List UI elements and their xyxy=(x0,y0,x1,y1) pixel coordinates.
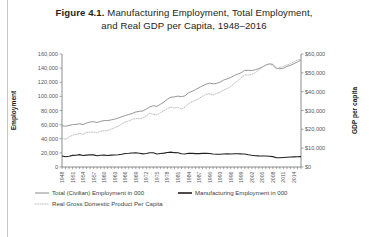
x-axis-tick-label: 1993 xyxy=(217,171,223,183)
x-axis-tick-label: 1984 xyxy=(186,171,192,183)
y-axis-left-title: Employment xyxy=(10,90,18,130)
x-axis-tick-label: 1990 xyxy=(207,171,213,183)
x-axis-tick-label: 2002 xyxy=(249,171,255,183)
figure-title: Figure 4.1. Manufacturing Employment, To… xyxy=(34,6,334,32)
figure-number: Figure 4.1. xyxy=(55,7,104,18)
axis-lines xyxy=(62,54,301,167)
series-line xyxy=(62,152,301,158)
x-axis-tick-label: 1957 xyxy=(91,171,97,183)
x-axis-tick-label: 1975 xyxy=(154,171,160,183)
x-axis-tick-label: 1969 xyxy=(133,171,139,183)
y-axis-right-tick-label: $60,000 xyxy=(305,51,325,57)
y-axis-left-tick-label: 100,000 xyxy=(38,93,58,99)
y-axis-left-tick-label: 120,000 xyxy=(38,79,58,85)
chart-container: 020,00040,00060,00080,000100,000120,0001… xyxy=(0,38,369,237)
figure-title-line-2: and Real GDP per Capita, 1948–2016 xyxy=(101,20,266,31)
y-axis-left-tick-label: 140,000 xyxy=(38,65,58,71)
chart-series-layer xyxy=(62,59,301,157)
x-axis-tick-label: 1996 xyxy=(228,171,234,183)
y-axis-right-tick-label: $20,000 xyxy=(305,126,325,132)
y-axis-right-tick-label: $40,000 xyxy=(305,89,325,95)
y-axis-left-tick-label: 60,000 xyxy=(41,122,58,128)
x-axis-tick-label: 1960 xyxy=(101,171,107,183)
y-axis-left-tick-label: 160,000 xyxy=(38,51,58,57)
x-axis-tick-label: 1978 xyxy=(164,171,170,183)
line-chart: 020,00040,00060,00080,000100,000120,0001… xyxy=(0,38,369,237)
y-axis-right-title: GDP per capita xyxy=(351,87,359,134)
x-axis-ticks: 1948195119541957196019631966196919721975… xyxy=(59,167,301,183)
x-axis-tick-label: 1972 xyxy=(143,171,149,183)
x-axis-tick-label: 1999 xyxy=(238,171,244,183)
y-axis-left-ticks: 020,00040,00060,00080,000100,000120,0001… xyxy=(38,51,62,170)
x-axis-tick-label: 1954 xyxy=(80,171,86,183)
series-line xyxy=(62,60,301,126)
x-axis-tick-label: 1987 xyxy=(196,171,202,183)
x-axis-tick-label: 2014 xyxy=(291,171,297,183)
y-axis-right-tick-label: $0 xyxy=(305,164,311,170)
x-axis-tick-label: 2005 xyxy=(259,171,265,183)
figure-source-caption xyxy=(34,232,344,237)
legend-label: Manufacturing Employment in 000 xyxy=(195,189,288,196)
y-axis-left-tick-label: 40,000 xyxy=(41,136,58,142)
legend-label: Real Gross Domestic Product Per Capita xyxy=(52,200,163,207)
chart-legend: Total (Civilian) Employment in 000Manufa… xyxy=(35,189,288,207)
x-axis-tick-label: 2011 xyxy=(280,171,286,182)
legend-label: Total (Civilian) Employment in 000 xyxy=(52,189,145,196)
y-axis-left-tick-label: 80,000 xyxy=(41,108,58,114)
x-axis-tick-label: 1951 xyxy=(70,171,76,183)
x-axis-tick-label: 1981 xyxy=(175,171,181,183)
y-axis-right-tick-label: $10,000 xyxy=(305,145,325,151)
x-axis-tick-label: 1963 xyxy=(112,171,118,183)
y-axis-right-tick-label: $30,000 xyxy=(305,108,325,114)
figure-title-line-1: Manufacturing Employment, Total Employme… xyxy=(107,7,312,18)
y-axis-left-tick-label: 20,000 xyxy=(41,150,58,156)
x-axis-tick-label: 2008 xyxy=(270,171,276,183)
y-axis-right-tick-label: $50,000 xyxy=(305,70,325,76)
y-axis-right-ticks: $0$10,000$20,000$30,000$40,000$50,000$60… xyxy=(301,51,325,170)
x-axis-tick-label: 1948 xyxy=(59,171,65,183)
y-axis-left-tick-label: 0 xyxy=(55,164,58,170)
figure-page: Figure 4.1. Manufacturing Employment, To… xyxy=(0,0,369,237)
x-axis-tick-label: 1966 xyxy=(122,171,128,183)
series-line xyxy=(62,59,301,139)
